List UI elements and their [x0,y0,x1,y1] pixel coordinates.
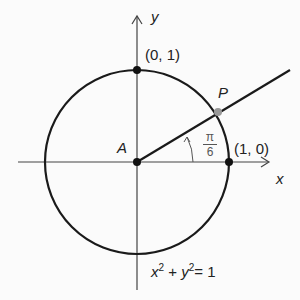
x-axis-label: x [276,171,284,186]
eq-plus: + [164,263,181,280]
eq-y: y [181,263,189,280]
point-right-label: (1, 0) [234,141,269,156]
unit-circle-diagram: y x (0, 1) (1, 0) P A π 6 x2 + y2= 1 [0,0,300,300]
angle-numerator: π [203,131,217,143]
point-right [225,158,233,166]
angle-arc [187,137,193,162]
point-top [133,66,141,74]
circle-equation: x2 + y2= 1 [151,263,216,279]
point-p [214,108,222,116]
center-label: A [117,140,127,155]
eq-rhs: = 1 [194,263,215,280]
eq-x: x [151,263,159,280]
point-top-label: (0, 1) [145,47,180,62]
y-axis-label: y [151,9,159,24]
angle-label: π 6 [203,131,217,158]
point-a [133,158,141,166]
point-p-label: P [218,85,228,100]
angle-denominator: 6 [203,146,217,158]
angle-arrow-icon [184,137,190,142]
